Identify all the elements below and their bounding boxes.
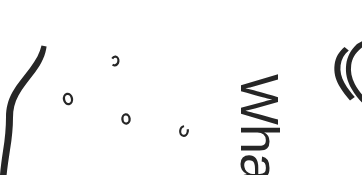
ink-drawing-layer [0,0,362,175]
small-o-mark-1 [63,93,73,105]
rotated-word-text: Wha [233,74,287,175]
artwork-canvas: Wha [0,0,362,175]
tapered-s-curve-stroke [0,46,47,176]
small-o-mark-3 [122,114,130,124]
small-o-mark-2 [111,56,119,66]
scattered-o-marks [63,56,189,136]
small-o-mark-4 [179,126,188,137]
